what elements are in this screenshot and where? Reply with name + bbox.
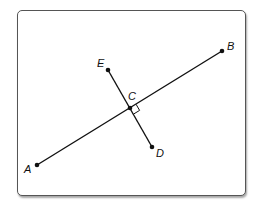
point-c: [128, 106, 133, 111]
diagram-canvas: [0, 0, 263, 210]
label-a: A: [24, 164, 31, 175]
label-d: D: [156, 148, 164, 159]
point-b: [220, 49, 225, 54]
point-d: [150, 145, 155, 150]
label-c: C: [128, 91, 136, 102]
label-b: B: [227, 41, 234, 52]
point-a: [35, 163, 40, 168]
point-e: [106, 68, 111, 73]
label-e: E: [97, 58, 104, 69]
